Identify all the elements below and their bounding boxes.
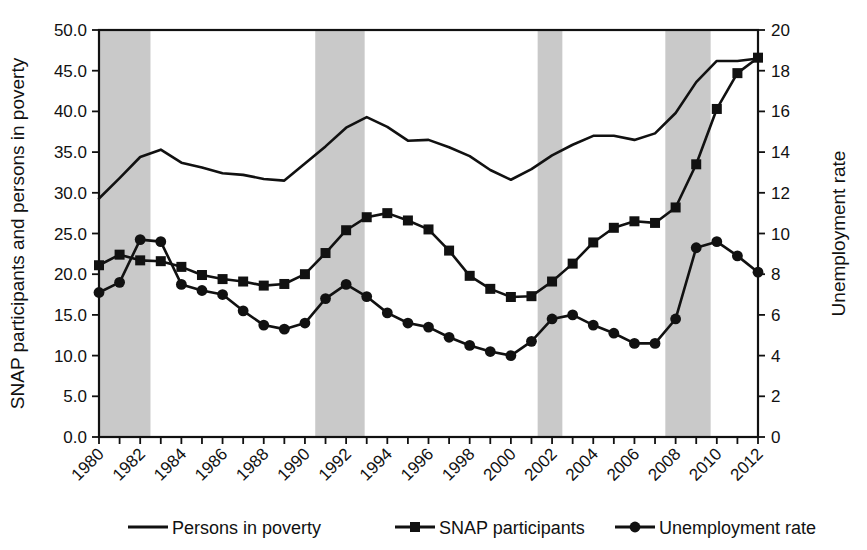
data-point-marker bbox=[197, 270, 207, 280]
data-point-marker bbox=[753, 267, 764, 278]
data-point-marker bbox=[485, 284, 495, 294]
data-point-marker bbox=[135, 255, 145, 265]
legend-label: Persons in poverty bbox=[172, 518, 321, 538]
data-point-marker bbox=[506, 292, 516, 302]
data-point-marker bbox=[341, 225, 351, 235]
data-point-marker bbox=[547, 314, 558, 325]
data-point-marker bbox=[176, 279, 187, 290]
data-point-marker bbox=[176, 262, 186, 272]
data-point-marker bbox=[444, 246, 454, 256]
right-axis-tick-label: 4 bbox=[771, 347, 780, 366]
right-axis-tick-label: 14 bbox=[771, 143, 790, 162]
data-point-marker bbox=[238, 305, 249, 316]
data-point-marker bbox=[382, 208, 392, 218]
data-point-marker bbox=[526, 291, 536, 301]
left-axis-tick-label: 0.0 bbox=[63, 428, 87, 447]
data-point-marker bbox=[547, 277, 557, 287]
data-point-marker bbox=[485, 346, 496, 357]
legend-label: SNAP participants bbox=[439, 518, 585, 538]
data-point-marker bbox=[465, 271, 475, 281]
data-point-marker bbox=[712, 104, 722, 114]
data-point-marker bbox=[217, 289, 228, 300]
data-point-marker bbox=[361, 291, 372, 302]
data-point-marker bbox=[505, 350, 516, 361]
data-point-marker bbox=[321, 248, 331, 258]
left-axis-tick-label: 20.0 bbox=[54, 265, 87, 284]
data-point-marker bbox=[711, 236, 722, 247]
right-axis-tick-label: 18 bbox=[771, 62, 790, 81]
recession-band-1 bbox=[315, 30, 364, 437]
data-point-marker bbox=[671, 202, 681, 212]
data-point-marker bbox=[588, 320, 599, 331]
left-axis-tick-label: 40.0 bbox=[54, 102, 87, 121]
right-axis-tick-label: 2 bbox=[771, 387, 780, 406]
line-chart: 0.05.010.015.020.025.030.035.040.045.050… bbox=[0, 0, 867, 550]
right-axis-title: Unemployment rate bbox=[828, 151, 849, 317]
data-point-marker bbox=[155, 236, 166, 247]
data-point-marker bbox=[341, 279, 352, 290]
left-axis-tick-label: 15.0 bbox=[54, 306, 87, 325]
data-point-marker bbox=[464, 340, 475, 351]
data-point-marker bbox=[300, 318, 311, 329]
right-axis-tick-label: 10 bbox=[771, 225, 790, 244]
chart-figure: 0.05.010.015.020.025.030.035.040.045.050… bbox=[0, 0, 867, 550]
right-axis-tick-label: 0 bbox=[771, 428, 780, 447]
data-point-marker bbox=[279, 324, 290, 335]
data-point-marker bbox=[320, 293, 331, 304]
data-point-marker bbox=[279, 279, 289, 289]
left-axis-tick-label: 50.0 bbox=[54, 21, 87, 40]
data-point-marker bbox=[362, 212, 372, 222]
data-point-marker bbox=[629, 338, 640, 349]
data-point-marker bbox=[691, 159, 701, 169]
left-axis-tick-label: 25.0 bbox=[54, 225, 87, 244]
right-axis-tick-label: 16 bbox=[771, 102, 790, 121]
left-axis-tick-label: 5.0 bbox=[63, 387, 87, 406]
data-point-marker bbox=[567, 310, 578, 321]
data-point-marker bbox=[258, 320, 269, 331]
data-point-marker bbox=[650, 218, 660, 228]
data-point-marker bbox=[156, 256, 166, 266]
data-point-marker bbox=[115, 250, 125, 260]
right-axis-tick-label: 6 bbox=[771, 306, 780, 325]
right-axis-tick-label: 12 bbox=[771, 184, 790, 203]
data-point-marker bbox=[424, 224, 434, 234]
data-point-marker bbox=[382, 307, 393, 318]
data-point-marker bbox=[650, 338, 661, 349]
data-point-marker bbox=[403, 318, 414, 329]
left-axis-tick-label: 45.0 bbox=[54, 62, 87, 81]
data-point-marker bbox=[135, 234, 146, 245]
data-point-marker bbox=[753, 53, 763, 63]
left-axis-title: SNAP participants and persons in poverty bbox=[7, 57, 28, 409]
legend-circle-marker bbox=[630, 522, 641, 533]
data-point-marker bbox=[732, 250, 743, 261]
left-axis-tick-label: 35.0 bbox=[54, 143, 87, 162]
chart-legend: Persons in povertySNAP participantsUnemp… bbox=[128, 518, 816, 538]
legend-square-marker bbox=[410, 522, 420, 532]
recession-band-0 bbox=[99, 30, 150, 437]
data-point-marker bbox=[300, 269, 310, 279]
data-point-marker bbox=[423, 322, 434, 333]
data-point-marker bbox=[526, 336, 537, 347]
data-point-marker bbox=[609, 223, 619, 233]
data-point-marker bbox=[259, 281, 269, 291]
left-axis-tick-label: 10.0 bbox=[54, 347, 87, 366]
data-point-marker bbox=[114, 277, 125, 288]
data-point-marker bbox=[608, 328, 619, 339]
data-point-marker bbox=[732, 68, 742, 78]
data-point-marker bbox=[629, 216, 639, 226]
recession-band-3 bbox=[665, 30, 710, 437]
data-point-marker bbox=[94, 287, 105, 298]
data-point-marker bbox=[568, 259, 578, 269]
recession-band-2 bbox=[538, 30, 563, 437]
data-point-marker bbox=[403, 215, 413, 225]
data-point-marker bbox=[238, 277, 248, 287]
data-point-marker bbox=[197, 285, 208, 296]
data-point-marker bbox=[670, 314, 681, 325]
legend-label: Unemployment rate bbox=[659, 518, 816, 538]
data-point-marker bbox=[94, 260, 104, 270]
left-axis-tick-label: 30.0 bbox=[54, 184, 87, 203]
right-axis-tick-label: 8 bbox=[771, 265, 780, 284]
data-point-marker bbox=[444, 332, 455, 343]
data-point-marker bbox=[218, 274, 228, 284]
right-axis-tick-label: 20 bbox=[771, 21, 790, 40]
